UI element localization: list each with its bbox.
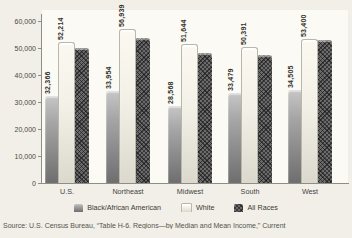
bar-value-label: 51,644 (180, 19, 188, 42)
bar-white-northeast (119, 29, 136, 183)
y-tick-mark (38, 21, 42, 22)
x-axis-category-label: South (218, 187, 282, 196)
y-tick-label: 60,000 (0, 17, 36, 26)
y-tick-label: 20,000 (0, 125, 36, 134)
legend-item-all-races: All Races (234, 203, 277, 212)
y-tick-mark (38, 75, 42, 76)
bar-value-label: 53,400 (300, 14, 308, 37)
legend-swatch-icon (234, 204, 243, 212)
legend-label: White (196, 203, 214, 212)
bar-white-midwest (181, 44, 198, 183)
legend-swatch-icon (181, 203, 192, 212)
legend-item-black-african-american: Black/African American (74, 203, 161, 212)
legend-label: Black/African American (87, 203, 161, 212)
bar-value-label: 56,939 (118, 4, 126, 27)
y-tick-label: 10,000 (0, 152, 36, 161)
bar-value-label: 33,479 (227, 68, 235, 91)
bar-value-label: 33,954 (105, 66, 113, 89)
y-tick-label: 30,000 (0, 98, 36, 107)
bar-value-label: 52,214 (57, 17, 65, 40)
bar-value-label: 34,505 (287, 65, 295, 88)
y-tick-mark (38, 183, 42, 184)
y-tick-label: 0 (0, 179, 36, 188)
chart-page: 010,00020,00030,00040,00050,00060,00032,… (0, 0, 352, 238)
bar-white-south (241, 47, 258, 183)
source-citation: Source: U.S. Census Bureau, “Table H-6. … (3, 222, 352, 229)
bar-value-label: 28,568 (167, 81, 175, 104)
y-tick-mark (38, 102, 42, 103)
bar-value-label: 50,391 (240, 22, 248, 45)
legend-item-white: White (181, 203, 214, 212)
bar-white-west (301, 39, 318, 183)
x-axis-category-label: West (278, 187, 342, 196)
legend-swatch-icon (74, 204, 83, 212)
legend: Black/African AmericanWhiteAll Races (0, 203, 352, 212)
y-tick-mark (38, 48, 42, 49)
y-tick-label: 50,000 (0, 44, 36, 53)
y-tick-mark (38, 129, 42, 130)
legend-label: All Races (247, 203, 277, 212)
bar-value-label: 32,366 (44, 71, 52, 94)
x-axis-category-label: U.S. (35, 187, 99, 196)
bar-white-u-s (58, 42, 75, 183)
x-axis-category-label: Midwest (158, 187, 222, 196)
x-axis-category-label: Northeast (96, 187, 160, 196)
y-tick-label: 40,000 (0, 71, 36, 80)
y-tick-mark (38, 156, 42, 157)
